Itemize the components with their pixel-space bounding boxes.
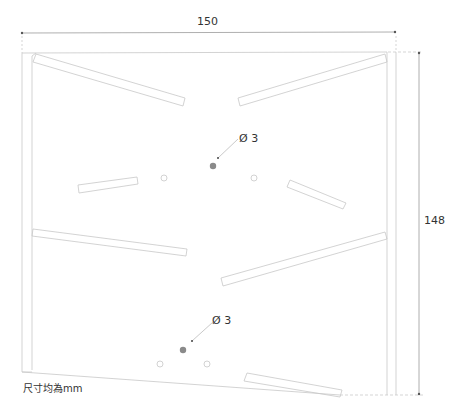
height-dimension bbox=[340, 52, 425, 395]
hole-filled-lower bbox=[180, 347, 186, 353]
slot-mid-left bbox=[78, 177, 138, 193]
hole-open-upper-left bbox=[161, 175, 167, 181]
slot-mid-right bbox=[287, 180, 346, 209]
height-dimension-label: 148 bbox=[424, 215, 445, 226]
hole-callout-upper: Ø 3 bbox=[239, 133, 258, 144]
leaders bbox=[191, 139, 238, 342]
holes bbox=[157, 163, 257, 367]
units-note: 尺寸均為mm bbox=[23, 384, 82, 394]
slot-lower-left bbox=[32, 229, 187, 256]
slot-top-left bbox=[33, 54, 185, 106]
width-dimension bbox=[21, 31, 396, 53]
hole-open-lower-right bbox=[204, 361, 210, 367]
panel-outline bbox=[22, 52, 396, 395]
hole-callout-lower: Ø 3 bbox=[212, 315, 231, 326]
slot-lower-right bbox=[221, 232, 387, 286]
slot-bottom bbox=[244, 373, 342, 397]
technical-drawing bbox=[0, 0, 459, 410]
slots bbox=[32, 54, 387, 397]
width-dimension-label: 150 bbox=[197, 16, 218, 27]
hole-open-lower-left bbox=[157, 361, 163, 367]
hole-open-upper-right bbox=[251, 175, 257, 181]
slot-top-right bbox=[238, 54, 387, 106]
hole-filled-upper bbox=[210, 163, 216, 169]
